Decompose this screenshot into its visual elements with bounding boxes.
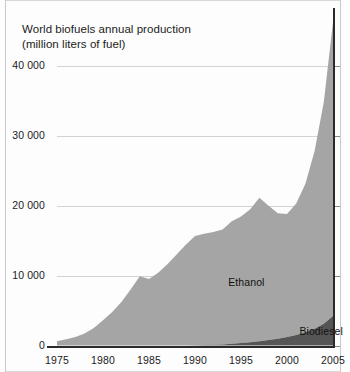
x-tick-label-1975: 1975 [37,354,77,366]
series-label-ethanol: Ethanol [228,276,264,288]
x-tick-label-1990: 1990 [175,354,215,366]
series-label-biodiesel: Biodiesel [299,325,343,337]
x-tick-label-1995: 1995 [221,354,261,366]
x-tick-label-2005: 2005 [313,354,350,366]
series-area-ethanol [57,22,333,345]
x-axis-line [47,346,335,348]
x-tick-label-1980: 1980 [83,354,123,366]
y-tick-label-30000: 30 000 [0,129,45,141]
y-tick-label-0: 0 [0,339,45,351]
y-tick-label-40000: 40 000 [0,59,45,71]
y-tick-label-10000: 10 000 [0,269,45,281]
x-tick-label-1985: 1985 [129,354,169,366]
right-axis-line [333,8,335,348]
x-tick-label-2000: 2000 [267,354,307,366]
y-tick-label-20000: 20 000 [0,199,45,211]
